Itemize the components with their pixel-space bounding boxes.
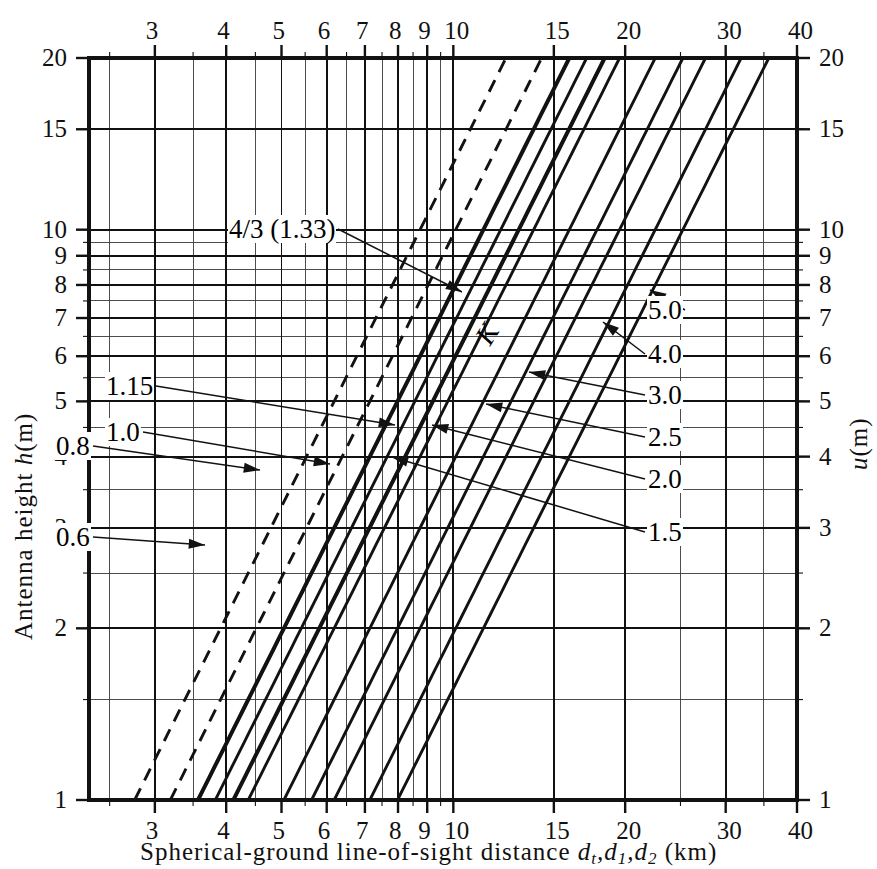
x-axis-title-text: Spherical-ground line-of-sight distance	[140, 838, 571, 865]
y-axis-tick-label-right: 6	[819, 343, 832, 368]
k-curve-2.5[interactable]	[312, 58, 683, 800]
k-curve-label-4.0: 4.0	[647, 340, 683, 368]
k-curve-2.0[interactable]	[284, 58, 655, 800]
x-axis-tick-label-top: 9	[418, 18, 431, 43]
y2-axis-symbol: u	[845, 457, 872, 471]
y-axis-tick-label-right: 2	[819, 615, 832, 640]
leader-line-2.5-head	[486, 402, 503, 412]
k-curve-label-2.0: 2.0	[647, 465, 683, 493]
y-axis-tick-label-left: 10	[39, 217, 67, 242]
leader-line-2.0	[432, 425, 645, 479]
x-axis-title: Spherical-ground line-of-sight distance …	[140, 838, 717, 869]
y-axis-tick-label-right: 20	[819, 45, 844, 70]
k-curve-label-0.8: 0.8	[55, 432, 91, 460]
y-axis-tick-label-left: 7	[53, 305, 67, 330]
leader-line-0.6-head	[188, 539, 205, 549]
y-axis-title-left: Antenna height h(m)	[10, 413, 38, 640]
x-axis-tick-label-top: 20	[616, 18, 641, 43]
y-axis-title-right: u(m)	[845, 417, 873, 470]
k-curve-label-2.5: 2.5	[647, 423, 683, 451]
y2-axis-units: (m)	[845, 417, 872, 456]
y-axis-tick-label-right: 15	[819, 116, 844, 141]
x-axis-tick-label-top: 15	[545, 18, 570, 43]
x-axis-tick-label-top: 5	[273, 18, 286, 43]
y-axis-tick-label-left: 9	[53, 243, 67, 268]
k-curve-label-1.0: 1.0	[105, 418, 141, 446]
y-axis-tick-label-left: 5	[53, 388, 67, 413]
y-axis-tick-label-left: 20	[39, 45, 67, 70]
leader-line-3.0	[529, 372, 645, 395]
x-axis-tick-label-bottom: 30	[717, 818, 742, 843]
k-curve-4.0[interactable]	[370, 58, 741, 800]
y-axis-symbol: h	[10, 452, 37, 466]
x-axis-tick-label-top: 30	[717, 18, 742, 43]
y-axis-tick-label-right: 9	[819, 243, 832, 268]
x-axis-tick-label-top: 3	[146, 18, 159, 43]
k-curve-label-4_3__1.33_: 4/3 (1.33)	[228, 215, 336, 243]
leader-line-4_3__1.33_	[338, 229, 462, 292]
leader-line-1.0	[143, 432, 330, 464]
x-axis-tick-label-top: 6	[318, 18, 331, 43]
y-axis-tick-label-left: 8	[53, 272, 67, 297]
k-curve-label-1.15: 1.15	[105, 372, 154, 400]
k-curve-label-3.0: 3.0	[647, 381, 683, 409]
k-curve-1.5[interactable]	[248, 58, 619, 800]
y-axis-tick-label-right: 8	[819, 272, 832, 297]
leader-line-0.8	[93, 446, 260, 470]
y-axis-tick-label-right: 5	[819, 388, 832, 413]
k-curve-4_3__1.33_[interactable]	[233, 58, 604, 800]
y-axis-tick-label-left: 2	[53, 615, 67, 640]
x-axis-symbols: dt,d1,d2	[578, 838, 658, 865]
k-curve-label-1.5: 1.5	[647, 518, 683, 546]
k-curve-1.15[interactable]	[215, 58, 586, 800]
y-axis-title-text: Antenna height	[10, 473, 37, 640]
y-axis-tick-label-left: 1	[53, 787, 67, 812]
leader-line-3.0-head	[529, 370, 546, 380]
x-axis-tick-label-top: 8	[389, 18, 402, 43]
x-axis-tick-label-top: 40	[788, 18, 813, 43]
k-curve-label-5.0: 5.0	[647, 296, 683, 324]
k-curve-1.0[interactable]	[198, 58, 569, 800]
y-axis-tick-label-right: 3	[819, 515, 832, 540]
y-axis-tick-label-right: 1	[819, 787, 832, 812]
leader-line-1.5	[392, 457, 645, 532]
y-axis-tick-label-left: 6	[53, 343, 67, 368]
x-axis-units: (km)	[665, 838, 718, 865]
y-axis-tick-label-left: 15	[39, 116, 67, 141]
y-axis-units: (m)	[10, 413, 37, 452]
y-axis-tick-label-right: 7	[819, 305, 832, 330]
x-axis-tick-label-bottom: 40	[788, 818, 813, 843]
y-axis-tick-label-right: 4	[819, 444, 832, 469]
x-axis-tick-label-top: 7	[356, 18, 369, 43]
leader-line-1.15	[156, 386, 395, 425]
y-axis-tick-label-right: 10	[819, 217, 844, 242]
x-axis-tick-label-top: 4	[217, 18, 230, 43]
leader-line-0.8-head	[243, 463, 260, 473]
k-curve-label-0.6: 0.6	[55, 523, 91, 551]
x-axis-tick-label-top: 10	[444, 18, 469, 43]
